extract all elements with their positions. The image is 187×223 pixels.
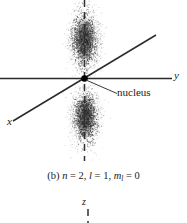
axis-label-x: x [7, 116, 12, 127]
caption-part-label: (b) [47, 170, 59, 181]
orbital-diagram-svg [0, 0, 187, 223]
nucleus-annotation-label: nucleus [117, 87, 151, 98]
axis-label-y: y [174, 70, 179, 81]
orbital-figure: y x z nucleus (b) n = 2, l = 1, ml = 0 [0, 0, 187, 223]
next-figure-axis-label-z: z [82, 197, 86, 207]
figure-caption: (b) n = 2, l = 1, ml = 0 [0, 170, 187, 183]
caption-value-m: 0 [135, 170, 140, 181]
